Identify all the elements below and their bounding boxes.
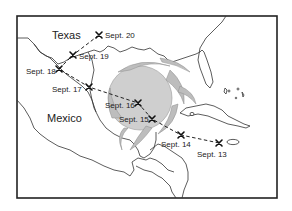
hurricane-track-map: Texas Mexico Sept. 13 Sept. 14 Sept. 15 … — [0, 0, 292, 211]
date-label-sept-18: Sept. 18 — [26, 67, 56, 76]
date-label-sept-17: Sept. 17 — [52, 85, 82, 94]
date-label-sept-14: Sept. 14 — [161, 140, 191, 149]
date-label-sept-16: Sept. 16 — [105, 101, 135, 110]
region-label-mexico: Mexico — [47, 112, 82, 124]
region-label-texas: Texas — [52, 29, 81, 41]
date-label-sept-19: Sept. 19 — [79, 52, 109, 61]
date-label-sept-15: Sept. 15 — [119, 115, 149, 124]
date-label-sept-20: Sept. 20 — [105, 31, 135, 40]
date-label-sept-13: Sept. 13 — [197, 150, 227, 159]
